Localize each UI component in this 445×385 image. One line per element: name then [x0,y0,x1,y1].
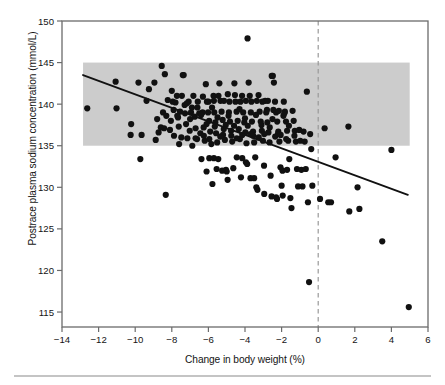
x-axis-label: Change in body weight (%) [62,354,428,365]
figure-container: −14−12−10−8−6−4−20246 115120125130135140… [0,0,445,385]
data-point [244,161,250,167]
data-point [211,155,217,161]
data-point [128,132,134,138]
data-point [203,81,209,87]
data-point [225,177,231,183]
data-point [230,165,236,171]
data-point [288,205,294,211]
data-point [291,133,297,139]
data-point [181,72,187,78]
data-point [178,134,184,140]
data-point [261,131,267,137]
x-tick-label: 2 [352,334,357,345]
x-tick-label: −4 [240,334,252,345]
data-point [272,99,278,105]
data-point [171,133,177,139]
data-point [203,168,209,174]
data-point [179,93,185,99]
data-point [276,108,282,114]
data-point [217,133,223,139]
y-tick-label: 145 [38,57,54,68]
data-point [269,116,275,122]
data-point [406,304,412,310]
data-point [189,143,195,149]
y-tick-label: 150 [38,16,54,27]
data-point [268,173,274,179]
data-point [190,93,196,99]
data-point [261,163,267,169]
data-point [232,92,238,98]
data-point [218,109,224,115]
data-point [231,80,237,86]
x-tick-label: −14 [54,334,71,345]
data-point [184,100,190,106]
data-point [205,109,211,115]
data-point [322,125,328,131]
scatter-plot-svg: −14−12−10−8−6−4−20246 115120125130135140… [0,0,445,385]
x-axis-ticks: −14−12−10−8−6−4−20246 [54,327,431,345]
data-point [209,181,215,187]
data-point [245,123,251,129]
data-point [280,193,286,199]
data-point [247,93,253,99]
data-point [354,184,360,190]
data-point [254,187,260,193]
data-point [270,107,276,113]
data-point [236,106,242,112]
data-point [272,133,278,139]
data-point [194,104,200,110]
data-point [187,116,193,122]
data-point [214,166,220,172]
data-point [281,99,287,105]
data-point [253,112,259,118]
x-tick-label: 4 [389,334,395,345]
data-point [238,174,244,180]
data-point [162,71,168,77]
data-point [168,118,174,124]
data-point [228,133,234,139]
data-point [284,167,290,173]
data-point [221,98,227,104]
data-point [214,114,220,120]
data-point [214,139,220,145]
data-point [252,154,258,160]
data-point [198,156,204,162]
data-point [176,124,182,130]
data-point [192,135,198,141]
data-point [346,208,352,214]
x-tick-label: −6 [203,334,214,345]
x-tick-label: −2 [276,334,287,345]
x-tick-label: −8 [166,334,177,345]
data-point [248,99,254,105]
data-point [254,98,260,104]
data-point [219,168,225,174]
data-point [163,113,169,119]
data-point [195,99,201,105]
data-point [276,138,282,144]
data-point [244,35,250,41]
data-point [264,107,270,113]
data-point [242,115,248,121]
data-point [303,166,309,172]
data-point [243,98,249,104]
data-point [137,156,143,162]
data-point [189,104,195,110]
data-point [270,73,276,79]
y-axis-ticks: 115120125130135140145150 [38,16,62,318]
data-point [226,99,232,105]
data-point [291,118,297,124]
data-point [243,140,249,146]
data-point [251,175,257,181]
data-point [172,99,178,105]
data-point [201,133,207,139]
data-point [184,135,190,141]
data-point [205,99,211,105]
data-point [135,79,141,85]
data-point [246,79,252,85]
data-point [167,127,173,133]
data-point [128,121,134,127]
data-point [146,86,152,92]
data-point [356,206,362,212]
data-point [279,183,285,189]
data-point [200,94,206,100]
